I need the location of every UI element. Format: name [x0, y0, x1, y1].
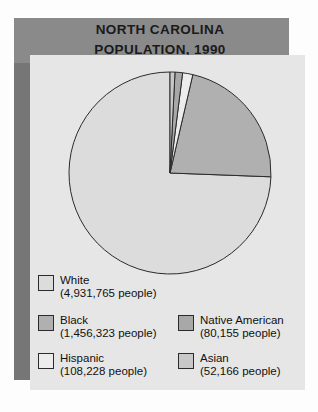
legend-swatch-white	[38, 275, 54, 291]
legend-count-asian: (52,166 people)	[200, 365, 281, 378]
legend-label-hispanic: Hispanic	[60, 352, 147, 365]
poster-page: NORTH CAROLINA POPULATION, 1990 White(4,…	[0, 0, 318, 412]
legend: White(4,931,765 people)Black(1,456,323 p…	[38, 274, 300, 382]
legend-count-hispanic: (108,228 people)	[60, 365, 147, 378]
legend-swatch-asian	[178, 353, 194, 369]
legend-text-native-american: Native American(80,155 people)	[200, 314, 284, 339]
legend-swatch-hispanic	[38, 353, 54, 369]
left-accent-band	[14, 18, 31, 380]
legend-label-native-american: Native American	[200, 314, 284, 327]
legend-item-asian[interactable]: Asian(52,166 people)	[178, 352, 281, 377]
legend-label-black: Black	[60, 314, 157, 327]
legend-swatch-native-american	[178, 315, 194, 331]
legend-label-asian: Asian	[200, 352, 281, 365]
legend-swatch-black	[38, 315, 54, 331]
pie-chart	[30, 55, 305, 280]
legend-item-white[interactable]: White(4,931,765 people)	[38, 274, 157, 299]
legend-text-hispanic: Hispanic(108,228 people)	[60, 352, 147, 377]
legend-item-hispanic[interactable]: Hispanic(108,228 people)	[38, 352, 147, 377]
pie-chart-svg	[30, 55, 305, 280]
legend-item-native-american[interactable]: Native American(80,155 people)	[178, 314, 284, 339]
legend-count-white: (4,931,765 people)	[60, 287, 157, 300]
legend-text-white: White(4,931,765 people)	[60, 274, 157, 299]
legend-count-black: (1,456,323 people)	[60, 327, 157, 340]
legend-item-black[interactable]: Black(1,456,323 people)	[38, 314, 157, 339]
page-title-line-1: NORTH CAROLINA	[31, 20, 289, 40]
legend-label-white: White	[60, 274, 157, 287]
pie-slice-group	[69, 72, 271, 274]
legend-text-asian: Asian(52,166 people)	[200, 352, 281, 377]
legend-text-black: Black(1,456,323 people)	[60, 314, 157, 339]
legend-count-native-american: (80,155 people)	[200, 327, 284, 340]
page-title: NORTH CAROLINA POPULATION, 1990	[31, 20, 289, 60]
